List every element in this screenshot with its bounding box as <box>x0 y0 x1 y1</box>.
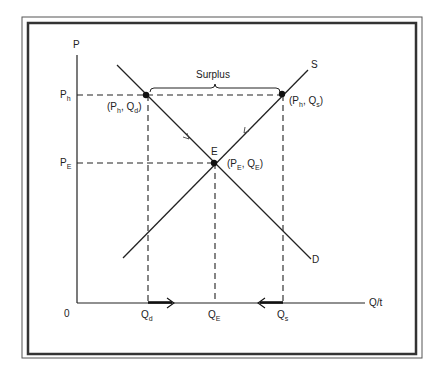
supply-demand-diagram: P Q/t 0 D S Surplus (Ph, Qd) (Ph, Qs) E … <box>0 0 440 374</box>
supply-label: S <box>311 59 318 70</box>
price-label-pe: PE <box>60 157 72 170</box>
qs-arrow-icon <box>258 298 283 308</box>
point-equilibrium <box>211 160 217 166</box>
ph-qd-label: (Ph, Qd) <box>107 101 142 114</box>
surplus-label: Surplus <box>196 69 230 80</box>
y-axis-label: P <box>73 39 80 50</box>
ph-qs-label: (Ph, Qs) <box>289 95 323 108</box>
price-label-ph: Ph <box>60 89 71 102</box>
quantity-label-qs: Qs <box>277 309 289 322</box>
equilibrium-label: E <box>211 146 218 157</box>
point-ph-qd <box>143 92 149 98</box>
quantity-label-qe: QE <box>208 309 221 322</box>
origin-label: 0 <box>64 308 70 319</box>
equilibrium-coord-label: (PE, QE) <box>227 158 263 171</box>
point-ph-qs <box>279 91 285 97</box>
surplus-bracket <box>150 84 280 92</box>
x-axis-label: Q/t <box>369 297 383 308</box>
demand-label: D <box>312 254 319 265</box>
quantity-label-qd: Qd <box>141 309 153 322</box>
qd-arrow-icon <box>148 298 174 308</box>
